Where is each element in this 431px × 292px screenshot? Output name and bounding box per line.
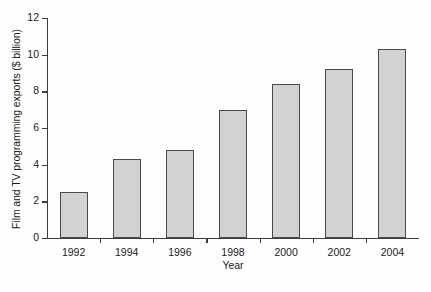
- x-axis-tick: [153, 238, 154, 243]
- y-axis-tick-label: 12: [27, 11, 39, 24]
- x-axis-tick-label: 2004: [362, 246, 422, 259]
- x-axis-tick: [206, 238, 207, 243]
- x-axis-tick: [313, 238, 314, 243]
- bar: [378, 49, 406, 238]
- bar: [166, 150, 194, 238]
- x-axis-tick-label: 1996: [150, 246, 210, 259]
- x-axis-line: [47, 238, 419, 239]
- bar: [325, 69, 353, 238]
- x-axis-tick: [100, 238, 101, 243]
- bar: [219, 110, 247, 238]
- y-axis-tick-label: 4: [33, 158, 39, 171]
- x-axis-tick-label: 2000: [256, 246, 316, 259]
- x-axis-tick: [366, 238, 367, 243]
- x-axis-tick-label: 1998: [203, 246, 263, 259]
- y-axis-tick-label: 10: [27, 48, 39, 61]
- y-axis-tick-label: 2: [33, 194, 39, 207]
- y-axis-tick: 4: [42, 165, 47, 166]
- bar: [113, 159, 141, 238]
- y-axis-tick: 0: [42, 238, 47, 239]
- plot-area: 024681012 1992199419961998200020022004: [47, 18, 419, 238]
- y-axis-tick-label: 0: [33, 231, 39, 244]
- y-axis-tick-label: 6: [33, 121, 39, 134]
- y-axis-line: [47, 18, 48, 238]
- x-axis-tick-label: 2002: [309, 246, 369, 259]
- y-axis-title: Film and TV programming exports ($ billi…: [9, 18, 23, 240]
- y-axis-tick: 6: [42, 128, 47, 129]
- bar: [272, 84, 300, 238]
- x-axis-tick: [260, 238, 261, 243]
- y-axis-tick: 8: [42, 91, 47, 92]
- y-axis-tick-label: 8: [33, 84, 39, 97]
- x-axis-tick-label: 1992: [44, 246, 104, 259]
- bar-chart-figure: Film and TV programming exports ($ billi…: [0, 0, 431, 292]
- bar: [60, 192, 88, 238]
- x-axis-tick-label: 1994: [97, 246, 157, 259]
- x-axis-title: Year: [47, 259, 419, 272]
- y-axis-tick: 2: [42, 201, 47, 202]
- y-axis-tick: 10: [42, 55, 47, 56]
- y-axis-tick: 12: [42, 18, 47, 19]
